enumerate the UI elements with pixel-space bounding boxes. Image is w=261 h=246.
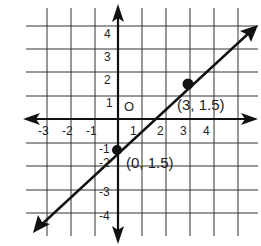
point-b-label: (3, 1.5) xyxy=(177,96,225,113)
x-tick-1: 1 xyxy=(130,124,137,138)
y-tick-2: 2 xyxy=(104,73,111,87)
y-tick-neg1: -1 xyxy=(99,142,110,156)
y-tick-3: 3 xyxy=(104,50,111,64)
y-axis xyxy=(112,4,124,244)
x-axis xyxy=(23,113,258,125)
y-tick-neg3: -3 xyxy=(99,185,110,199)
x-tick-4: 4 xyxy=(203,124,210,138)
x-tick-neg2: -2 xyxy=(62,124,73,138)
x-tick-neg3: -3 xyxy=(38,124,49,138)
grid xyxy=(26,8,258,236)
y-tick-1: 1 xyxy=(106,96,113,110)
x-tick-2: 2 xyxy=(157,124,164,138)
origin-label: O xyxy=(124,99,134,114)
y-tick-neg4: -4 xyxy=(99,209,110,223)
x-tick-neg1: -1 xyxy=(86,124,97,138)
point-a-label: (0, 1.5) xyxy=(126,154,174,171)
y-tick-4: 4 xyxy=(104,27,111,41)
point-3-1-5 xyxy=(183,79,194,90)
coordinate-plane: O 4 3 2 1 -1 -2 -3 -4 -3 -2 -1 1 2 3 4 (… xyxy=(0,0,261,246)
y-tick-neg2: -2 xyxy=(99,156,110,170)
x-tick-3: 3 xyxy=(180,124,187,138)
point-0-neg1-5 xyxy=(112,145,122,155)
